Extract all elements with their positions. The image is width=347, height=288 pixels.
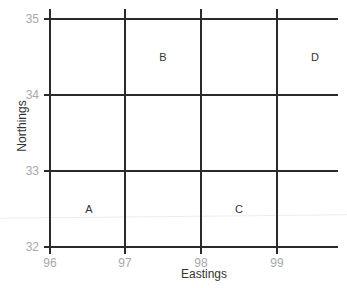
grid-line-northing-35 (44, 18, 338, 20)
y-tick-label-32: 32 (13, 241, 39, 253)
x-tick-label-99: 99 (262, 257, 292, 269)
grid-line-northing-34 (44, 94, 338, 96)
y-tick-label-33: 33 (13, 165, 39, 177)
cell-label-b: B (155, 52, 171, 63)
grid-line-easting-97 (124, 9, 126, 254)
x-tick-label-97: 97 (110, 257, 140, 269)
scan-artifact-line (0, 214, 347, 219)
y-axis-title: Northings (16, 96, 28, 156)
grid-line-easting-98 (200, 9, 202, 254)
grid-line-easting-96 (49, 9, 51, 254)
x-axis-title: Eastings (181, 268, 227, 280)
y-tick-label-35: 35 (13, 13, 39, 25)
grid-line-northing-33 (44, 170, 338, 172)
cell-label-d: D (307, 52, 323, 63)
grid-line-easting-99 (276, 9, 278, 254)
cell-label-c: C (231, 204, 247, 215)
grid-line-northing-32 (44, 246, 338, 248)
x-tick-label-96: 96 (35, 257, 65, 269)
cell-label-a: A (81, 204, 97, 215)
